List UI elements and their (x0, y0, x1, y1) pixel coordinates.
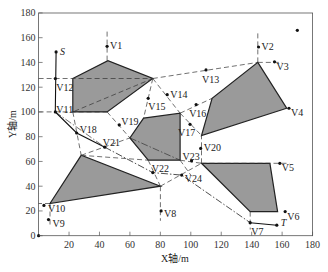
y-tick-label: 0 (31, 230, 36, 241)
waypoint-label: V8 (164, 208, 176, 219)
waypoint-marker-icon (180, 173, 183, 176)
waypoint-marker-icon (195, 103, 198, 106)
waypoint-marker-icon (257, 45, 260, 48)
waypoint-label: V1 (110, 40, 122, 51)
x-tick-label: 180 (305, 239, 320, 250)
waypoint-label: S (60, 46, 65, 57)
y-tick-label: 140 (21, 57, 36, 68)
y-tick-label: 100 (21, 106, 36, 117)
waypoint-marker-icon (55, 50, 58, 53)
waypoint-marker-icon (105, 45, 108, 48)
x-tick-label: 100 (183, 239, 198, 250)
waypoint-marker-icon (199, 147, 202, 150)
waypoint-label: V9 (52, 218, 64, 229)
waypoint-marker-icon (160, 209, 163, 212)
y-tick-label: 60 (26, 156, 36, 167)
x-tick-label: 120 (214, 239, 229, 250)
y-tick-label: 20 (26, 205, 36, 216)
waypoint-label: V10 (48, 203, 65, 214)
waypoint-label: V7 (251, 226, 263, 237)
waypoint-label: V2 (262, 41, 274, 52)
waypoint-marker-icon (249, 221, 252, 224)
y-tick-label: 40 (26, 181, 36, 192)
y-tick-label: 80 (26, 131, 36, 142)
waypoint-label: V3 (277, 61, 289, 72)
waypoint-marker-icon (75, 131, 78, 134)
waypoint-marker-icon (47, 218, 50, 221)
waypoint-marker-icon (204, 68, 207, 71)
waypoint-label: V24 (185, 173, 202, 184)
x-tick-label: 40 (94, 239, 104, 250)
x-tick-label: 160 (275, 239, 290, 250)
waypoint-label: V13 (202, 74, 219, 85)
waypoint-label: V18 (80, 124, 97, 135)
waypoint-label: V15 (148, 101, 165, 112)
waypoint-label: V17 (178, 127, 195, 138)
waypoint-v21: V21 (103, 137, 120, 149)
waypoint-v22: V22 (151, 163, 169, 175)
waypoint-marker-icon (188, 123, 191, 126)
waypoint-marker-icon (147, 97, 150, 100)
lone-marker-icon (296, 29, 299, 32)
path-planning-diagram: STV1V2V3V4V5V6V7V8V9V10V11V12V13V14V15V1… (0, 0, 328, 272)
x-tick-label: 60 (125, 239, 135, 250)
y-tick-label: 180 (21, 7, 36, 18)
waypoint-v11: V11 (54, 104, 73, 115)
waypoint-label: V5 (282, 162, 294, 173)
y-axis-title: Y轴/m (6, 110, 18, 138)
waypoint-label: V22 (152, 163, 169, 174)
waypoint-label: V21 (103, 137, 120, 148)
waypoint-label: V20 (204, 142, 221, 153)
x-tick-label: 20 (64, 239, 74, 250)
waypoint-label: V16 (189, 108, 206, 119)
waypoint-label: V12 (56, 82, 73, 93)
waypoint-label: V19 (121, 116, 138, 127)
waypoint-v23: V23 (183, 151, 200, 163)
waypoint-marker-icon (275, 224, 278, 227)
x-axis-title: X轴/m (161, 252, 189, 264)
waypoint-label: V6 (287, 211, 299, 222)
waypoint-label: V11 (56, 104, 73, 115)
waypoint-label: V14 (170, 89, 187, 100)
waypoint-label: V4 (291, 107, 303, 118)
y-tick-label: 160 (21, 32, 36, 43)
x-tick-label: 80 (155, 239, 165, 250)
waypoint-marker-icon (166, 93, 169, 96)
waypoint-marker-icon (42, 204, 45, 207)
waypoint-v19: V19 (118, 116, 139, 127)
x-tick-label: 140 (244, 239, 259, 250)
waypoint-marker-icon (54, 77, 57, 80)
y-tick-label: 120 (21, 82, 36, 93)
waypoint-label: V23 (183, 151, 200, 162)
